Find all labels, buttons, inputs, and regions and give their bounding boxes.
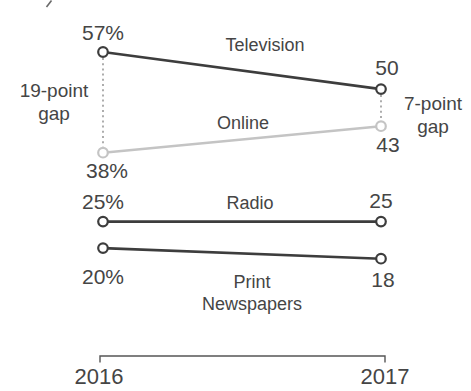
slope-chart-canvas: 57% 50 38% 43 25% 25 20% 18 Television O… xyxy=(0,0,471,391)
online-series-label: Online xyxy=(217,113,269,133)
series-print-newspapers xyxy=(98,243,386,263)
print-newspapers-2016-marker xyxy=(98,243,108,253)
television-series-label: Television xyxy=(225,35,304,55)
x-axis-start-year: 2016 xyxy=(75,364,124,389)
online-2017-marker xyxy=(376,121,386,131)
radio-series-label: Radio xyxy=(226,193,273,213)
television-2016-marker xyxy=(98,47,108,57)
right-gap-annotation-line2: gap xyxy=(417,116,449,137)
radio-2016-marker xyxy=(98,217,108,227)
left-gap-annotation-line1: 19-point xyxy=(20,80,89,101)
print-newspapers-2017-marker xyxy=(376,254,386,264)
television-end-value: 50 xyxy=(375,56,398,79)
online-start-value: 38% xyxy=(86,159,128,182)
series-radio xyxy=(98,217,386,227)
radio-end-value: 25 xyxy=(369,189,392,212)
clipped-text-fragment xyxy=(47,1,52,8)
right-gap-annotation-line1: 7-point xyxy=(404,93,463,114)
print-series-label-line1: Print xyxy=(233,272,270,292)
television-start-value: 57% xyxy=(82,21,124,44)
left-gap-annotation-line2: gap xyxy=(38,103,70,124)
print-start-value: 20% xyxy=(82,265,124,288)
online-end-value: 43 xyxy=(376,133,399,156)
online-2016-marker xyxy=(98,148,108,158)
print-end-value: 18 xyxy=(371,268,394,291)
print-newspapers-line xyxy=(103,248,381,259)
television-2017-marker xyxy=(376,84,386,94)
x-axis-bracket xyxy=(100,356,385,363)
radio-start-value: 25% xyxy=(82,190,124,213)
radio-2017-marker xyxy=(376,217,386,227)
print-series-label-line2: Newspapers xyxy=(202,294,302,314)
x-axis-end-year: 2017 xyxy=(361,364,410,389)
slope-chart-figure: 57% 50 38% 43 25% 25 20% 18 Television O… xyxy=(0,0,471,391)
television-line xyxy=(103,52,381,89)
